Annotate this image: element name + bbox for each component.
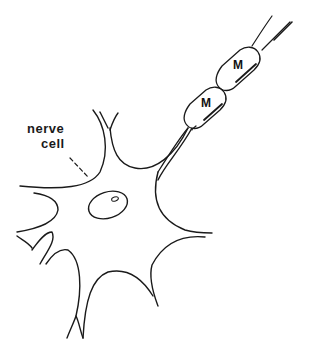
label-pointer-line [70,158,88,177]
axon-distal [252,16,292,50]
axon [158,126,196,172]
nerve-cell-label-line2: cell [41,137,65,151]
myelin-label-2: M [233,58,243,72]
neuron-diagram: nerve cell M M [0,0,309,356]
nucleus [85,186,131,223]
neuron-drawing [0,0,309,356]
nerve-cell-label-line1: nerve [27,122,64,136]
myelin-label-1: M [201,96,211,110]
